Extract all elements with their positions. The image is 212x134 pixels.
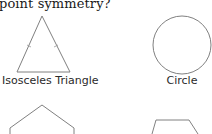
trapezoid-shape (152, 120, 198, 134)
pentagon-shape (10, 105, 74, 134)
shapes-canvas (0, 0, 212, 134)
isosceles-triangle-label: Isosceles Triangle (2, 74, 86, 87)
isosceles-triangle-shape (17, 16, 70, 72)
circle-label: Circle (160, 74, 204, 87)
circle-shape (153, 16, 211, 74)
